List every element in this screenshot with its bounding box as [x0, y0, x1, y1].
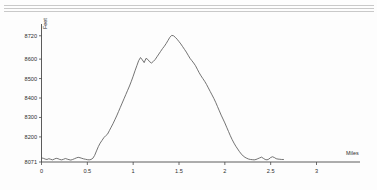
x-axis-tick-label: 1.5 [175, 168, 183, 174]
x-axis-tick-label: 2 [223, 168, 226, 174]
y-axis-tick-label: 8400 [25, 95, 37, 101]
y-axis-tick-label: 8720 [25, 33, 37, 39]
elevation-line [42, 35, 284, 160]
x-axis-tick-label: 3 [315, 168, 318, 174]
y-axis-title: Feet [42, 18, 48, 29]
x-axis-tick-label: 0 [40, 168, 43, 174]
elevation-series [42, 35, 284, 160]
x-axis-tick-label: 2.5 [267, 168, 275, 174]
x-axis-title: Miles [346, 150, 359, 156]
y-axis-tick-label: 8300 [25, 114, 37, 120]
y-axis-tick-label: 8200 [25, 134, 37, 140]
x-axis: 00.511.522.53 Miles [40, 150, 360, 174]
y-axis: 8071820083008400850086008720 Feet [25, 18, 48, 165]
elevation-profile-chart: 8071820083008400850086008720 Feet 00.511… [0, 0, 377, 190]
y-axis-tick-label: 8600 [25, 56, 37, 62]
x-axis-tick-label: 0.5 [83, 168, 91, 174]
y-axis-tick-label: 8071 [25, 159, 37, 165]
y-axis-tick-label: 8500 [25, 76, 37, 82]
x-axis-tick-label: 1 [132, 168, 135, 174]
y-axis-tick-labels: 8071820083008400850086008720 [25, 33, 37, 165]
elevation-profile-plot: 8071820083008400850086008720 Feet 00.511… [0, 0, 377, 190]
x-axis-tick-labels: 00.511.522.53 [40, 168, 318, 174]
